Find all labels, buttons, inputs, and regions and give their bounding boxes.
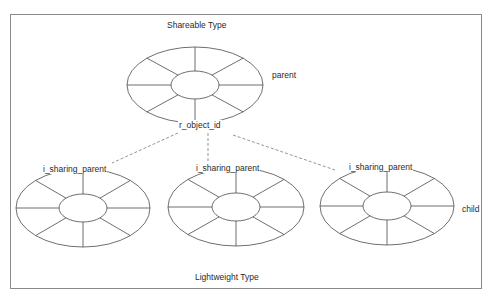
parent-wheel-spoke [147,95,178,112]
child-1-i-sharing-parent-label: i_sharing_parent [42,164,107,174]
child-3-wheel-spoke [340,178,370,196]
child-1-wheel-inner-ellipse [59,194,107,222]
parent-wheel-spoke [212,58,243,75]
child-2-wheel-spoke [188,217,219,235]
child-2-wheel-inner-ellipse [212,193,260,221]
diagram-canvas [0,0,491,299]
r-object-id-label: r_object_id [178,120,222,130]
child-1-wheel-spoke [36,218,66,236]
child-3-wheel-inner-ellipse [363,192,411,220]
child-2-i-sharing-parent-label: i_sharing_parent [195,163,260,173]
child-2-wheel-spoke [253,217,284,235]
child-1-wheel-spoke [100,180,130,198]
parent-wheel-spoke [212,95,243,112]
parent-wheel-spoke [147,58,178,75]
child-2-wheel-spoke [188,179,219,197]
shareable-type-title: Shareable Type [166,20,227,30]
child-3-wheel-spoke [404,178,434,196]
child-3-wheel-spoke [340,216,370,234]
child-3-wheel-spoke [404,216,434,234]
parent-wheel-inner-ellipse [171,71,219,99]
child-role-label: child [461,204,480,214]
child-1-wheel-spoke [100,218,130,236]
connector-line-1 [112,133,178,163]
child-3-i-sharing-parent-label: i_sharing_parent [348,162,413,172]
child-1-wheel-spoke [36,180,66,198]
lightweight-type-title: Lightweight Type [194,272,260,282]
child-2-wheel-spoke [253,179,284,197]
parent-role-label: parent [271,70,297,80]
